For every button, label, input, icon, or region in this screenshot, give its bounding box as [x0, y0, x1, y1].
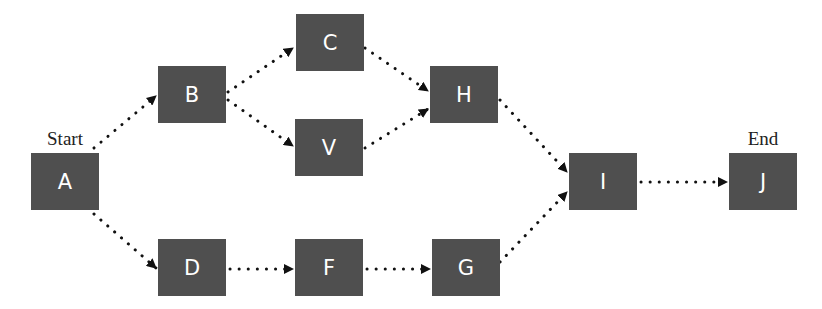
- end-label: End: [723, 128, 803, 150]
- edge-g-i: [500, 192, 567, 262]
- node-a[interactable]: A: [31, 153, 99, 210]
- edge-a-d: [94, 214, 156, 268]
- node-f[interactable]: F: [295, 239, 363, 296]
- node-b[interactable]: B: [158, 66, 226, 123]
- edge-c-h: [365, 48, 428, 91]
- start-label: Start: [25, 128, 105, 150]
- node-h[interactable]: H: [430, 66, 498, 123]
- edge-b-v: [228, 100, 293, 146]
- node-c[interactable]: C: [296, 14, 364, 71]
- node-j[interactable]: J: [729, 153, 797, 210]
- edge-v-h: [365, 109, 428, 148]
- edge-b-c: [228, 48, 293, 92]
- node-v[interactable]: V: [295, 119, 363, 176]
- node-i[interactable]: I: [569, 153, 637, 210]
- network-diagram: Start End A B C V D F H G I J: [0, 0, 822, 309]
- node-g[interactable]: G: [432, 239, 500, 296]
- edge-h-i: [500, 100, 567, 172]
- node-d[interactable]: D: [158, 239, 226, 296]
- edges-layer: [0, 0, 822, 309]
